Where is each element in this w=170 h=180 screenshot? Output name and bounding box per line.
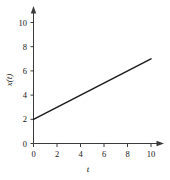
x-tick-label-2: 2 bbox=[55, 149, 59, 159]
chart-canvas: 0 2 4 6 8 10 0 2 4 6 8 10 t x(t) bbox=[0, 0, 170, 180]
y-tick-label-2: 2 bbox=[23, 114, 27, 124]
y-axis-title: x(t) bbox=[4, 74, 14, 88]
y-tick-label-8: 8 bbox=[23, 42, 27, 52]
x-tick-label-10: 10 bbox=[147, 149, 156, 159]
y-tick-label-0: 0 bbox=[23, 139, 27, 149]
x-tick-label-6: 6 bbox=[102, 149, 106, 159]
line-chart-figure: 0 2 4 6 8 10 0 2 4 6 8 10 t x(t) bbox=[0, 0, 170, 180]
y-tick-label-10: 10 bbox=[19, 18, 28, 28]
x-tick-label-8: 8 bbox=[125, 149, 129, 159]
y-tick-label-6: 6 bbox=[23, 66, 27, 76]
x-tick-label-0: 0 bbox=[31, 149, 35, 159]
